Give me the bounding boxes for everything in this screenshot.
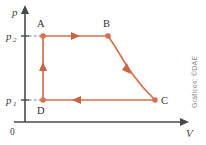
process-cd-arrowhead	[72, 96, 81, 104]
volume-axis-label: V	[186, 127, 194, 139]
state-point-d-dot	[40, 97, 46, 103]
process-ab-arrowhead	[71, 32, 80, 40]
pressure-axis-arrowhead	[21, 5, 29, 14]
state-point-d-label: D	[37, 105, 45, 116]
cycle-paths-group	[39, 32, 155, 104]
y-tick-p2: p 2	[5, 30, 43, 44]
process-bc-curve	[108, 36, 155, 100]
pv-diagram-figure: p V 0 p 2 p 1	[0, 0, 206, 145]
pressure-axis-label: p	[11, 6, 18, 18]
state-point-c-label: C	[161, 95, 168, 106]
process-da-arrowhead	[39, 62, 47, 71]
y-tick-p1-base: p	[5, 94, 12, 106]
volume-axis-arrowhead	[180, 118, 189, 126]
y-tick-p1-subscript: 1	[13, 100, 17, 108]
credit-watermark: Gráficos: ©DAE	[191, 56, 198, 108]
state-point-a-dot	[40, 33, 46, 39]
state-point-a-label: A	[37, 18, 45, 29]
state-point-b-dot	[105, 33, 111, 39]
pv-diagram-canvas: p V 0 p 2 p 1	[0, 0, 206, 145]
y-tick-p2-base: p	[5, 30, 12, 42]
y-tick-p2-subscript: 2	[13, 36, 17, 44]
state-point-b-label: B	[103, 18, 110, 29]
state-point-c-dot	[152, 97, 158, 103]
state-points-group	[40, 33, 158, 103]
origin-label: 0	[10, 127, 15, 137]
